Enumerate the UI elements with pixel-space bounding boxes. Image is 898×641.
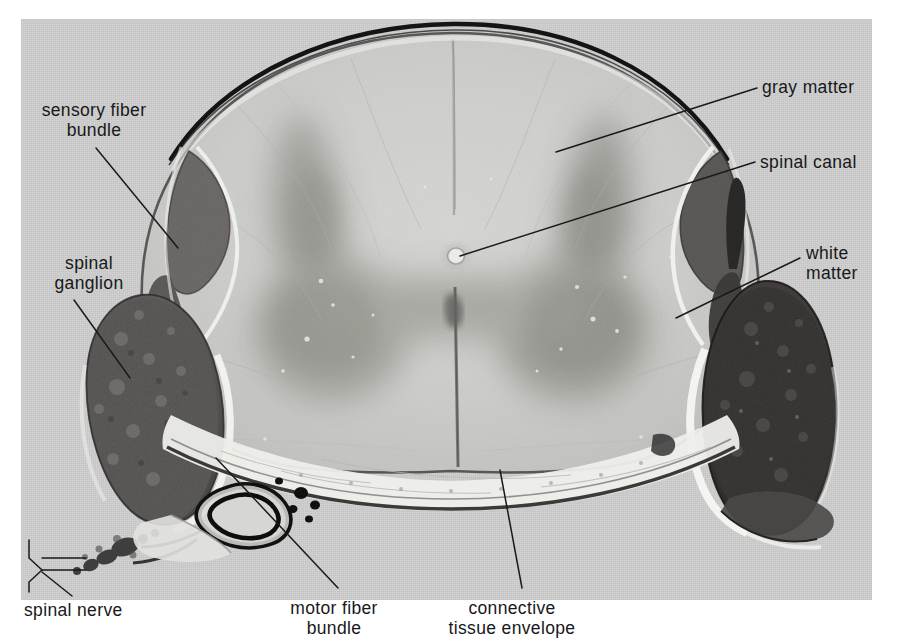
label-spinal-nerve: spinal nerve <box>24 600 123 620</box>
label-sensory-fiber-bundle: sensory fiber bundle <box>31 100 157 141</box>
label-white-matter: white matter <box>806 243 890 284</box>
label-connective-tissue-envelope: connective tissue envelope <box>436 598 588 639</box>
label-spinal-ganglion: spinal ganglion <box>31 253 147 294</box>
label-spinal-canal: spinal canal <box>760 152 857 172</box>
label-motor-fiber-bundle: motor fiber bundle <box>270 598 398 639</box>
label-gray-matter: gray matter <box>762 77 854 97</box>
spinal-cord-figure: sensory fiber bundle spinal ganglion spi… <box>0 0 898 641</box>
